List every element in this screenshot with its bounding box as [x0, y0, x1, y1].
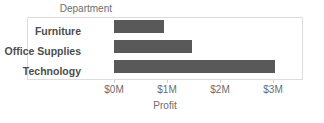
bar-office-supplies[interactable]	[114, 40, 192, 53]
bar-chart: Department Furniture Office Supplies Tec…	[0, 0, 324, 123]
bar-furniture[interactable]	[114, 20, 164, 33]
x-axis-tick-label[interactable]: $0M	[94, 84, 134, 96]
x-axis-tick-mark	[273, 80, 274, 83]
x-axis-title: Profit	[27, 100, 303, 112]
x-axis-tick-label[interactable]: $1M	[147, 84, 187, 96]
x-axis-tick-label[interactable]: $2M	[200, 84, 240, 96]
bar-technology[interactable]	[114, 60, 275, 73]
bars-container	[28, 18, 302, 79]
x-axis-tick-mark	[220, 80, 221, 83]
department-field-header: Department	[28, 3, 112, 15]
x-axis-tick-mark	[114, 80, 115, 83]
x-axis-tick-label[interactable]: $3M	[253, 84, 293, 96]
x-axis-tick-mark	[167, 80, 168, 83]
